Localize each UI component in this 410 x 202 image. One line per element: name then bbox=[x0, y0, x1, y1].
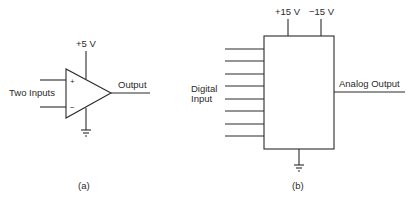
digital-input-label-line2: Input bbox=[191, 93, 212, 104]
minus-sign: − bbox=[70, 103, 75, 112]
caption-a: (a) bbox=[78, 180, 90, 191]
output-label: Output bbox=[118, 79, 147, 90]
supply-label: +5 V bbox=[76, 38, 96, 49]
positive-supply-label: +15 V bbox=[275, 6, 301, 17]
dac-box bbox=[264, 36, 334, 149]
ground-icon bbox=[81, 130, 91, 136]
dac-diagram: +15 V −15 V Digital Input Analog Output … bbox=[191, 6, 405, 191]
plus-sign: + bbox=[70, 77, 75, 86]
negative-supply-label: −15 V bbox=[309, 6, 335, 17]
caption-b: (b) bbox=[292, 180, 304, 191]
inputs-label: Two Inputs bbox=[9, 87, 55, 98]
op-amp-diagram: +5 V + − Two Inputs Output (a) bbox=[9, 38, 150, 191]
diagram-canvas: +5 V + − Two Inputs Output (a) +15 V −15… bbox=[0, 0, 410, 202]
digital-input-lines bbox=[225, 49, 264, 136]
analog-output-label: Analog Output bbox=[339, 78, 400, 89]
ground-icon-b bbox=[294, 165, 304, 171]
